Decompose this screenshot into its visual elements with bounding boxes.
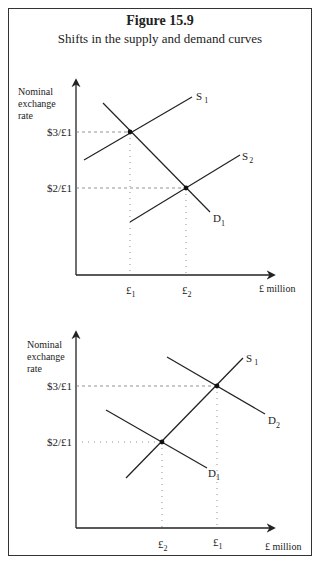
equilibrium-point	[184, 186, 189, 191]
y-axis-label-line3: rate	[18, 110, 34, 121]
label-d1: D1	[213, 212, 225, 228]
curve-d1	[103, 103, 210, 212]
curve-d1	[106, 410, 207, 468]
equilibrium-point	[215, 384, 220, 389]
chart-bottom: Nominal exchange rate $3/£1 $2/£1 S1 D2 …	[27, 332, 301, 553]
label-d1: D1	[208, 467, 220, 482]
x-axis-label: £ million	[265, 541, 301, 552]
y-tick-2: $2/£1	[47, 436, 72, 448]
charts-svg: Nominal exchange rate $3/£1 $2/£1 S1 S2 …	[0, 0, 320, 564]
equilibrium-point	[160, 440, 165, 445]
y-axis-label-line1: Nominal	[18, 86, 53, 97]
chart-top: Nominal exchange rate $3/£1 $2/£1 S1 S2 …	[18, 80, 295, 299]
label-s2: S2	[242, 150, 253, 165]
y-axis-label-line3: rate	[27, 363, 43, 374]
y-tick-2: $2/£1	[47, 182, 72, 194]
label-d2: D2	[268, 414, 280, 430]
x-tick-1: £1	[126, 284, 136, 299]
label-s1: S1	[196, 90, 208, 105]
y-axis-label-line2: exchange	[18, 98, 56, 109]
curve-s1	[84, 97, 192, 160]
y-tick-3: $3/£1	[47, 126, 72, 138]
curve-s1	[126, 358, 243, 478]
x-tick-1: £1	[213, 536, 223, 551]
x-tick-2: £2	[158, 538, 168, 553]
y-tick-3: $3/£1	[47, 380, 72, 392]
x-tick-2: £2	[182, 284, 192, 299]
x-axis-label: £ million	[259, 283, 295, 294]
equilibrium-point	[128, 130, 133, 135]
label-s1: S1	[246, 352, 258, 367]
y-axis-label-line1: Nominal	[27, 339, 62, 350]
y-axis-label-line2: exchange	[27, 351, 65, 362]
